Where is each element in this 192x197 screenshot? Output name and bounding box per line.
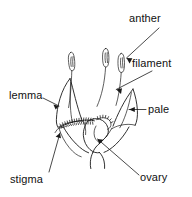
stigma-bristles [59,118,93,129]
leader-ovary [98,139,140,175]
anther-middle [103,48,109,67]
ovary-body [83,119,108,169]
label-filament: filament [132,57,171,69]
figure-canvas: anther filament lemma pale stigma ovary [0,0,192,197]
label-stigma: stigma [10,173,44,185]
label-anther: anther [129,12,161,24]
label-lemma: lemma [9,89,43,101]
flower-drawing [55,48,137,168]
botanical-figure: anther filament lemma pale stigma ovary [0,0,192,197]
anther-left [68,52,74,71]
leader-lemma [43,98,59,110]
anther-right [118,53,125,72]
stigma-feather [55,118,94,133]
label-pale: pale [148,103,169,115]
leader-stigma [49,133,61,172]
leader-filament [116,71,152,94]
label-ovary: ovary [140,171,168,183]
